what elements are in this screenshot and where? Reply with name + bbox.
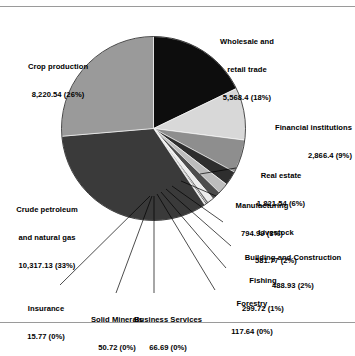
- label-insurance: Insurance 15.77 (0%): [10, 285, 82, 356]
- label-forestry: Forestry 117.64 (0%): [216, 280, 288, 355]
- label-crude-line2: and natural gas: [4, 233, 90, 242]
- label-forestry-line1: Forestry: [216, 299, 288, 308]
- label-crop-line1: Crop production: [10, 62, 106, 71]
- label-crop-line2: 8,220.54 (26%): [10, 90, 106, 99]
- label-crude-line3: 10,317.13 (33%): [4, 261, 90, 270]
- label-crude-petroleum: Crude petroleum and natural gas 10,317.1…: [4, 186, 90, 289]
- label-solid-minerals-line2: 50.72 (0%): [73, 343, 161, 352]
- label-forestry-line2: 117.64 (0%): [216, 327, 288, 336]
- label-solid-minerals: Solid Minerals 50.72 (0%): [73, 296, 161, 356]
- label-wholesale-line3: 5,568.4 (18%): [192, 93, 302, 102]
- label-crop-production: Crop production 8,220.54 (26%): [10, 43, 106, 118]
- label-wholesale-line1: Wholesale and: [192, 37, 302, 46]
- label-crude-line1: Crude petroleum: [4, 205, 90, 214]
- label-insurance-line2: 15.77 (0%): [10, 332, 82, 341]
- label-solid-minerals-line1: Solid Minerals: [73, 315, 161, 324]
- label-insurance-line1: Insurance: [10, 304, 82, 313]
- label-wholesale-line2: retail trade: [192, 65, 302, 74]
- label-financial-line1: Financial institutions: [222, 123, 352, 132]
- label-real-estate-line1: Real estate: [237, 171, 325, 180]
